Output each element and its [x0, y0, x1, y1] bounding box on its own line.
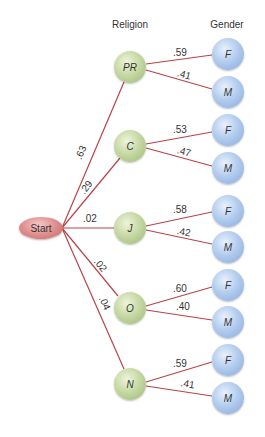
gender-node-pr-f: F [212, 38, 244, 70]
religion-node-o: O [114, 292, 146, 324]
gender-node-c-m: M [212, 152, 244, 184]
gender-node-c-f: F [212, 114, 244, 146]
edge-start-pr [62, 82, 124, 228]
gender-node-o-f: F [212, 269, 244, 301]
prob-pr-f: .59 [173, 47, 187, 58]
religion-node-j: J [114, 212, 146, 244]
prob-o-m: .40 [176, 301, 190, 312]
gender-node-n-f: F [212, 344, 244, 376]
gender-header: Gender [210, 19, 243, 30]
prob-n-m: .41 [180, 377, 196, 390]
prob-j-m: .42 [176, 225, 192, 238]
prob-o-f: .60 [173, 283, 187, 294]
prob-j-f: .58 [173, 204, 187, 215]
edge-start-n [62, 228, 124, 369]
start-node: Start [19, 217, 63, 239]
gender-node-n-m: M [212, 382, 244, 414]
religion-node-c: C [114, 130, 146, 162]
religion-node-n: N [114, 368, 146, 400]
religion-node-pr: PR [114, 51, 146, 83]
prob-c-f: .53 [173, 124, 187, 135]
prob-start-j: .02 [83, 213, 97, 224]
gender-node-pr-m: M [212, 76, 244, 108]
prob-n-f: .59 [173, 358, 187, 369]
gender-node-o-m: M [212, 306, 244, 338]
edge-start-o [62, 228, 118, 296]
gender-node-j-f: F [212, 195, 244, 227]
religion-header: Religion [112, 19, 148, 30]
gender-node-j-m: M [212, 231, 244, 263]
